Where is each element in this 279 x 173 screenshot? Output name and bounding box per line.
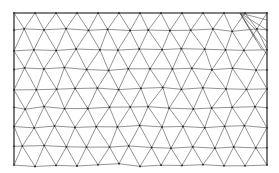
mesh-node	[255, 147, 257, 149]
mesh-edge	[119, 90, 131, 107]
mesh-node	[76, 165, 78, 167]
mesh-edge	[224, 13, 232, 31]
mesh-edge	[75, 89, 88, 109]
mesh-node	[138, 48, 140, 50]
mesh-node	[107, 29, 109, 31]
mesh-edge	[44, 89, 57, 106]
mesh-edge	[34, 128, 44, 146]
mesh-edge	[193, 108, 211, 109]
mesh-edge	[232, 107, 244, 125]
mesh-edge	[181, 89, 193, 109]
mesh-edge	[182, 147, 193, 166]
mesh-edge	[97, 88, 109, 107]
mesh-edge	[139, 30, 148, 49]
mesh-edge	[96, 107, 109, 127]
mesh-edge	[14, 68, 25, 70]
mesh-edge	[129, 146, 140, 167]
mesh-edge	[213, 13, 224, 29]
mesh-edge	[35, 165, 56, 166]
mesh-edge	[25, 68, 37, 90]
mesh-edge	[170, 31, 182, 49]
mesh-edge	[76, 49, 87, 70]
mesh-edge	[97, 88, 118, 90]
mesh-node	[55, 165, 57, 167]
mesh-edge	[35, 146, 44, 167]
mesh-node	[43, 106, 45, 108]
mesh-edge	[141, 88, 163, 89]
mesh-edge	[25, 107, 44, 110]
mesh-edge	[213, 29, 226, 50]
mesh-edge	[14, 29, 24, 51]
mesh-edge	[140, 107, 148, 126]
mesh-node	[211, 69, 213, 71]
mesh-edge	[96, 127, 109, 147]
mesh-edge	[129, 126, 140, 146]
mesh-edge	[14, 127, 22, 147]
mesh-edge	[225, 107, 233, 126]
mesh-edge	[169, 89, 181, 108]
mesh-edge	[14, 90, 25, 109]
mesh-node	[214, 147, 216, 149]
mesh-edge	[55, 109, 65, 126]
mesh-edge	[77, 13, 89, 30]
mesh-edge	[89, 13, 99, 30]
mesh-edge	[140, 165, 161, 166]
mesh-edge	[181, 49, 204, 50]
mesh-edge	[119, 69, 129, 90]
mesh-edge	[234, 147, 245, 166]
mesh-edge	[34, 50, 56, 51]
mesh-edge	[163, 69, 173, 88]
mesh-edge	[161, 148, 171, 165]
mesh-edge	[225, 126, 234, 147]
mesh-node	[169, 30, 171, 32]
mesh-edge	[212, 70, 226, 89]
mesh-edge	[139, 49, 162, 50]
mesh-edge	[191, 13, 203, 30]
mesh-node	[181, 88, 183, 90]
mesh-node	[225, 88, 227, 90]
mesh-node	[33, 49, 35, 51]
mesh-node	[202, 87, 204, 89]
mesh-edge	[25, 50, 34, 68]
mesh-edge	[193, 147, 215, 148]
mesh-edge	[77, 165, 98, 166]
mesh-edge	[119, 88, 141, 89]
mesh-node	[212, 28, 214, 30]
mesh-node	[231, 106, 233, 108]
mesh-node	[170, 147, 172, 149]
mesh-edge	[14, 127, 34, 128]
mesh-edge	[233, 50, 244, 68]
mesh-edge	[191, 30, 205, 49]
mesh-edge	[24, 13, 35, 29]
mesh-node	[256, 28, 258, 30]
mesh-edge	[22, 146, 44, 147]
mesh-edge	[141, 88, 148, 106]
mesh-edge	[87, 70, 109, 71]
mesh-edge	[162, 108, 169, 127]
mesh-node	[34, 166, 36, 168]
mesh-edge	[212, 89, 226, 108]
mesh-edge	[171, 127, 183, 149]
mesh-edge	[172, 68, 191, 69]
mesh-edge	[161, 13, 170, 31]
mesh-node	[129, 30, 131, 32]
mesh-edge	[56, 165, 77, 166]
mesh-edge	[181, 88, 202, 90]
mesh-edge	[108, 29, 131, 30]
mesh-edge	[22, 128, 34, 146]
mesh-node	[254, 106, 256, 108]
mesh-edge	[66, 127, 75, 146]
mesh-edge	[148, 13, 161, 30]
mesh-edge	[244, 107, 255, 126]
mesh-node	[64, 108, 66, 110]
mesh-edge	[215, 126, 225, 148]
mesh-edge	[205, 29, 213, 49]
mesh-edge	[88, 88, 98, 108]
mesh-node	[151, 147, 153, 149]
mesh-edge	[205, 126, 225, 127]
mesh-node	[117, 126, 119, 128]
mesh-edge	[75, 127, 96, 128]
mesh-node	[88, 29, 90, 31]
mesh-edge	[140, 148, 152, 167]
mesh-edge	[130, 30, 148, 31]
